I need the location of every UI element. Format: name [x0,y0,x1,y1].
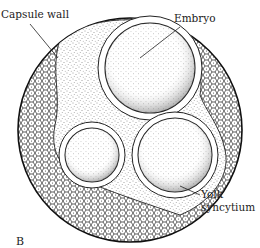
label-syncytium: syncytium [201,201,255,213]
leader-capsule-wall [30,24,58,58]
panel-label: B [16,235,24,248]
label-capsule-wall: Capsule wall [1,8,70,20]
label-yolk: Yolk [200,188,224,200]
capsule-diagram: Capsule wall Embryo Yolk syncytium B [0,0,260,248]
label-embryo: Embryo [174,12,216,24]
